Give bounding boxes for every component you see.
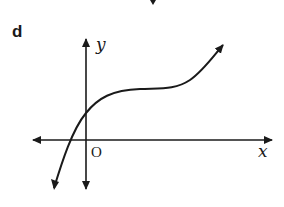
y-axis-label: y [96,34,106,54]
curve-start-arrow [51,179,59,190]
x-axis-label: x [258,141,268,161]
graph-canvas [0,0,284,207]
part-label: d [12,22,22,42]
top-arrow-fragment [150,0,156,5]
cubic-curve [54,45,223,188]
origin-label: O [91,144,102,161]
